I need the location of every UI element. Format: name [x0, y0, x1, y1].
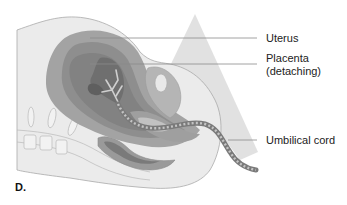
placental-abruption-diagram [0, 0, 347, 205]
fetal-eye-socket [155, 74, 167, 92]
uterus-label: Uterus [266, 32, 298, 45]
panel-letter: D. [15, 181, 26, 193]
umbilical-cord-label: Umbilical cord [266, 134, 335, 147]
placenta-label-line1: Placenta [266, 52, 309, 65]
placenta-label-line2: (detaching) [266, 65, 321, 78]
